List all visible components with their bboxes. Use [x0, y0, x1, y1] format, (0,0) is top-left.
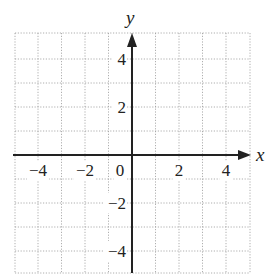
- y-tick-label: −4: [108, 242, 127, 261]
- y-axis-arrow-icon: [127, 33, 137, 47]
- y-axis-label: y: [124, 7, 135, 28]
- x-axis-arrow-icon: [238, 150, 251, 160]
- x-tick-label: −2: [76, 161, 94, 180]
- x-tick-label: 4: [222, 161, 231, 180]
- coordinate-plane: −4−2024 42−2−4 x y: [0, 0, 272, 278]
- y-tick-label: 4: [118, 50, 127, 69]
- y-tick-label: 2: [118, 98, 127, 117]
- y-tick-label: −2: [108, 194, 126, 213]
- x-axis-label: x: [255, 144, 265, 165]
- x-tick-label: 2: [175, 161, 184, 180]
- x-tick-label: −4: [29, 161, 48, 180]
- x-tick-labels: −4−2024: [27, 161, 233, 180]
- x-tick-label: 0: [116, 161, 125, 180]
- axes: [13, 33, 251, 273]
